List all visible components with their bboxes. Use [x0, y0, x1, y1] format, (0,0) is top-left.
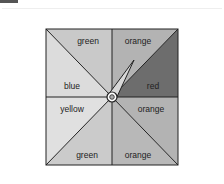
label-green-bottom: green [76, 150, 98, 160]
label-orange-right: orange [138, 104, 165, 114]
label-orange-bottom: orange [125, 150, 152, 160]
label-orange-top: orange [125, 36, 152, 46]
label-blue: blue [64, 81, 80, 91]
label-green-top: green [77, 36, 99, 46]
spinner-diagram: green orange red orange orange green yel… [0, 0, 224, 184]
spinner-hub-pin [110, 95, 115, 100]
label-yellow: yellow [60, 104, 84, 114]
label-red: red [147, 81, 160, 91]
